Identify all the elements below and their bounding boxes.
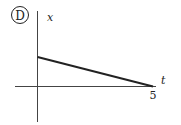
option-label: D xyxy=(15,9,25,23)
position-time-graph: D x t 5 xyxy=(0,0,181,125)
y-axis-label: x xyxy=(47,11,54,24)
data-line xyxy=(38,57,154,87)
option-badge: D xyxy=(12,7,29,24)
x-tick-5: 5 xyxy=(150,89,157,102)
x-axis-label: t xyxy=(161,74,166,87)
